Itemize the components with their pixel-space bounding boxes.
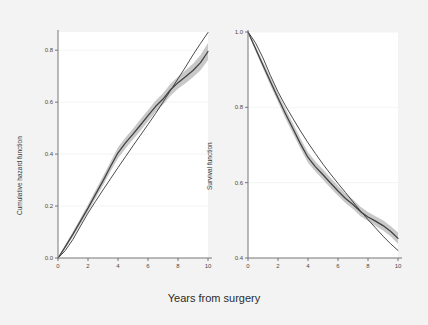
chart-canvas-left <box>30 24 215 274</box>
panel-cumulative-hazard: 0.00.20.40.60.80246810 <box>30 24 215 274</box>
xtick-label: 10 <box>388 263 408 269</box>
xtick-label: 4 <box>298 263 318 269</box>
ytick-label: 1.0 <box>220 29 243 35</box>
ytick-label: 0.4 <box>30 151 53 157</box>
xtick-label: 4 <box>108 263 128 269</box>
ylabel-cumulative-hazard: Cumulative hazard function <box>16 136 23 215</box>
xtick-label: 2 <box>78 263 98 269</box>
xlabel-years-from-surgery: Years from surgery <box>0 292 428 305</box>
xtick-label: 2 <box>268 263 288 269</box>
ytick-label: 0.4 <box>220 255 243 261</box>
panel-survival-function: 0.40.60.81.00246810 <box>220 24 405 274</box>
ytick-label: 0.8 <box>220 104 243 110</box>
ytick-label: 0.6 <box>30 99 53 105</box>
ylabel-survival-function: Survival function <box>206 142 213 190</box>
ytick-label: 0.8 <box>30 47 53 53</box>
xtick-label: 8 <box>168 263 188 269</box>
xtick-label: 0 <box>238 263 258 269</box>
xtick-label: 10 <box>198 263 218 269</box>
ytick-label: 0.6 <box>220 180 243 186</box>
figure-root: 0.00.20.40.60.80246810 Cumulative hazard… <box>0 0 428 325</box>
xtick-label: 0 <box>48 263 68 269</box>
ytick-label: 0.2 <box>30 203 53 209</box>
ytick-label: 0.0 <box>30 255 53 261</box>
xtick-label: 6 <box>328 263 348 269</box>
chart-canvas-right <box>220 24 405 274</box>
xtick-label: 6 <box>138 263 158 269</box>
xtick-label: 8 <box>358 263 378 269</box>
